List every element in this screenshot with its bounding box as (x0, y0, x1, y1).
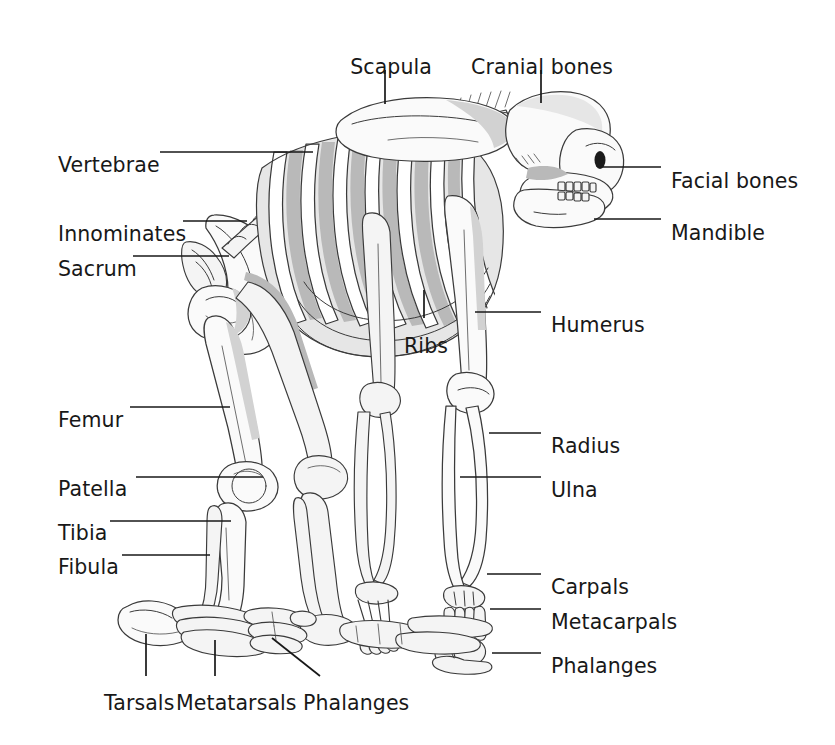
label-metacarpals: Metacarpals (551, 612, 677, 633)
label-tibia: Tibia (58, 523, 107, 544)
label-innominates: Innominates (58, 224, 186, 245)
label-fibula: Fibula (58, 557, 119, 578)
lower-teeth (558, 192, 589, 201)
label-mandible: Mandible (671, 223, 765, 244)
skeleton-illustration: .bone { fill:#fafafa; stroke:#3a3a3a; st… (0, 0, 835, 745)
label-scapula: Scapula (350, 57, 432, 78)
label-radius: Radius (551, 436, 620, 457)
label-tarsals: Tarsals (104, 693, 174, 714)
carpals-bones (444, 586, 485, 609)
label-vertebrae: Vertebrae (58, 155, 160, 176)
label-carpals: Carpals (551, 577, 629, 598)
skull-group (506, 92, 624, 228)
skeleton-drawing (118, 91, 624, 674)
far-foot-bones (301, 615, 493, 655)
label-phalanges-hand: Phalanges (551, 656, 657, 677)
label-femur: Femur (58, 410, 123, 431)
label-facial-bones: Facial bones (671, 171, 798, 192)
label-ulna: Ulna (551, 480, 598, 501)
label-humerus: Humerus (551, 315, 645, 336)
anatomy-diagram-page: .bone { fill:#fafafa; stroke:#3a3a3a; st… (0, 0, 835, 745)
label-phalanges-foot: Phalanges (303, 693, 409, 714)
label-cranial-bones: Cranial bones (471, 57, 613, 78)
label-metatarsals: Metatarsals (176, 693, 297, 714)
label-patella: Patella (58, 479, 127, 500)
label-ribs: Ribs (404, 336, 448, 357)
label-sacrum: Sacrum (58, 259, 137, 280)
near-foot-group (118, 601, 316, 657)
scapula-group (336, 98, 515, 162)
